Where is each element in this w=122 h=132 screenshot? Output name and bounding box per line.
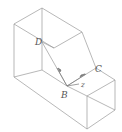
axis-label-z: z <box>80 81 85 89</box>
point-label-b: B <box>60 90 68 100</box>
solid-diagram: D C B z <box>0 0 122 132</box>
point-label-d: D <box>34 37 42 47</box>
point-label-c: C <box>95 64 102 74</box>
